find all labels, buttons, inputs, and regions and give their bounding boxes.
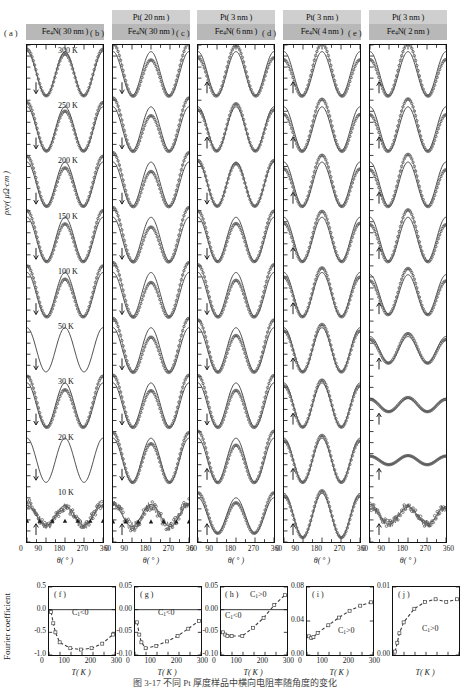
x-tick-c-1: 90 (206, 544, 214, 553)
temperature-label-4: 100 K (58, 267, 78, 276)
arrow-up-c-0 (205, 82, 210, 93)
x-tick-d-1: 90 (292, 544, 300, 553)
fourier-letter-i: ( i ) (312, 590, 324, 599)
fourier-y-tick-g-0: 0.05 (119, 581, 132, 590)
fourier-letter-g: ( g ) (140, 590, 153, 599)
fourier-x-tick-i-2: 200 (343, 656, 354, 665)
x-axis-title-e: θ( ° ) (369, 556, 447, 565)
x-tick-b-2: 180 (140, 544, 151, 553)
arrow-up-e-7 (377, 468, 382, 479)
x-tick-e-1: 90 (378, 544, 386, 553)
arrow-up-e-2 (377, 192, 382, 203)
x-tick-e-2: 180 (397, 544, 408, 553)
fourier-letter-h: ( h ) (225, 590, 238, 599)
fourier-x-tick-i-0: 0 (298, 656, 302, 665)
arrow-up-c-7 (205, 468, 210, 479)
fourier-letter-j: ( j ) (398, 590, 410, 599)
arrow-up-e-0 (377, 82, 382, 93)
fourier-x-tick-g-1: 100 (145, 656, 156, 665)
x-axis-title-d: θ( ° ) (283, 556, 361, 565)
fourier-y-tick-i-0: 0.08 (291, 581, 304, 590)
fourier-y-tick-i-1: 0.04 (291, 615, 304, 624)
panel-letter-a: ( a ) (4, 28, 18, 38)
fourier-sign-j-0: C1>0 (422, 624, 439, 633)
arrow-down-a-7 (34, 469, 39, 480)
arrow-up-d-3 (291, 248, 296, 259)
x-tick-e-3: 270 (420, 544, 431, 553)
fourier-sign-i-0: C1>0 (338, 626, 355, 635)
x-tick-d-2: 180 (311, 544, 322, 553)
arrow-down-a-2 (34, 193, 39, 204)
x-tick-b-3: 270 (163, 544, 174, 553)
figure-root: ρxy( μΩ·cm ) Fe4N( 30 nm ) 090180270360 … (0, 0, 470, 687)
x-tick-a-0: 0 (19, 544, 23, 553)
x-tick-d-3: 270 (334, 544, 345, 553)
figure-caption: 图 3-17 不同 Pt 厚度样品中横向电阻率随角度的变化 (0, 676, 470, 687)
fourier-y-ticks-h: 0.050.00-0.05-0.10 (194, 581, 218, 659)
x-tick-labels-b: 090180270360 (105, 544, 197, 553)
arrow-up-d-4 (291, 303, 296, 314)
fourier-sign-h-1: C1<0 (225, 611, 242, 620)
arrow-up-e-4 (377, 303, 382, 314)
plot-box-a (26, 44, 104, 543)
angular-curves-b (113, 45, 189, 542)
panel-letter-c: ( c ) (176, 28, 190, 38)
x-tick-b-1: 90 (121, 544, 129, 553)
x-tick-labels-c: 090180270360 (190, 544, 282, 553)
arrow-down-b-7 (120, 469, 125, 480)
fourier-x-tick-f-1: 100 (59, 656, 70, 665)
arrow-down-b-2 (120, 193, 125, 204)
arrow-up-e-8 (377, 524, 382, 535)
x-axis-title-a: θ( ° ) (26, 556, 104, 565)
fourier-y-tick-g-1: 0.00 (119, 604, 132, 613)
arrow-up-d-6 (291, 413, 296, 424)
fourier-x-tick-h-0: 0 (212, 656, 216, 665)
fourier-sign-f-0: C1<0 (72, 608, 89, 617)
stack-pt-layer-c: Pt( 3 nm ) (197, 10, 275, 24)
arrow-down-a-3 (34, 248, 39, 259)
fourier-y-tick-f-0: 0.5 (37, 581, 46, 590)
arrow-down-b-3 (120, 248, 125, 259)
fourier-letter-f: ( f ) (54, 590, 66, 599)
panel-letter-b: ( b ) (90, 28, 104, 38)
arrow-down-c-5 (205, 358, 210, 369)
arrow-down-b-1 (120, 138, 125, 149)
arrow-down-c-2 (205, 193, 210, 204)
panel-letter-d: ( d ) (262, 28, 276, 38)
x-tick-c-3: 270 (248, 544, 259, 553)
arrow-up-e-3 (377, 248, 382, 259)
x-tick-d-0: 0 (276, 544, 280, 553)
x-tick-labels-d: 090180270360 (276, 544, 368, 553)
plot-box-e (369, 44, 447, 543)
angular-curves-e (370, 45, 446, 542)
x-axis-title-b: θ( ° ) (112, 556, 190, 565)
arrow-down-a-5 (34, 358, 39, 369)
fourier-y-ticks-j: 0.010.00 (366, 581, 390, 659)
arrow-up-b-8 (120, 524, 125, 535)
stack-pt-layer-d: Pt( 3 nm ) (283, 10, 361, 24)
arrow-up-d-1 (291, 137, 296, 148)
x-tick-b-0: 0 (105, 544, 109, 553)
fourier-y-tick-h-2: -0.05 (202, 626, 218, 635)
temperature-label-3: 150 K (58, 212, 78, 221)
x-tick-c-0: 0 (190, 544, 194, 553)
temperature-label-0: 300 K (58, 46, 78, 55)
fourier-sign-h-0: C1>0 (250, 590, 267, 599)
fourier-x-tick-f-2: 200 (85, 656, 96, 665)
arrow-down-b-6 (120, 414, 125, 425)
arrow-up-e-1 (377, 137, 382, 148)
plot-box-b (112, 44, 190, 543)
temperature-label-7: 20 K (58, 433, 74, 442)
panel-letter-e: ( e ) (348, 28, 362, 38)
temperature-label-8: 10 K (58, 488, 74, 497)
arrow-down-b-4 (120, 303, 125, 314)
temperature-label-6: 30 K (58, 377, 74, 386)
angular-curves-c (198, 45, 274, 542)
arrow-down-b-5 (120, 358, 125, 369)
x-axis-title-c: θ( ° ) (197, 556, 275, 565)
x-tick-e-0: 0 (362, 544, 366, 553)
stack-spacer-a (26, 6, 104, 24)
temperature-label-1: 250 K (58, 101, 78, 110)
x-tick-a-3: 270 (77, 544, 88, 553)
fourier-x-tick-h-1: 100 (231, 656, 242, 665)
